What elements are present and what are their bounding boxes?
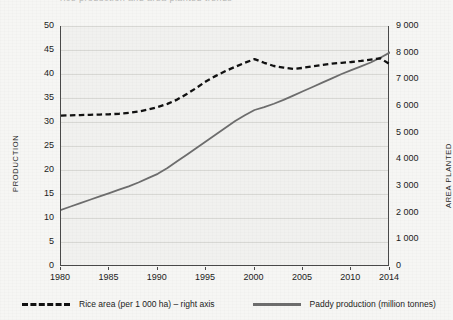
left-axis-tick: 50	[26, 20, 54, 30]
x-axis-tick: 1990	[137, 272, 177, 282]
right-axis-tick: 9 000	[396, 20, 419, 30]
x-axis-tick: 1995	[185, 272, 225, 282]
x-axis-tick: 1980	[40, 272, 80, 282]
left-axis-tick: 0	[26, 260, 54, 270]
right-axis-title: AREA PLANTED	[444, 143, 453, 208]
left-axis-tick: 30	[26, 116, 54, 126]
x-axis-tick-mark	[60, 267, 61, 270]
x-axis-tick-mark	[350, 267, 351, 270]
x-axis-tick-mark	[157, 267, 158, 270]
left-axis-tick: 5	[26, 236, 54, 246]
series-line-rice-area	[61, 58, 390, 115]
left-axis-tick: 45	[26, 44, 54, 54]
left-axis-title: PRODUCTION	[11, 135, 20, 192]
chart-legend: Rice area (per 1 000 ha) – right axis Pa…	[0, 296, 451, 312]
right-axis-tick: 0	[396, 260, 401, 270]
x-axis-tick-mark	[108, 267, 109, 270]
right-axis-tick: 7 000	[396, 73, 419, 83]
left-axis-tick: 10	[26, 212, 54, 222]
solid-line-swatch-icon	[253, 303, 301, 306]
left-axis-tick: 35	[26, 92, 54, 102]
left-axis-tick: 15	[26, 188, 54, 198]
x-axis-tick-mark	[389, 267, 390, 270]
x-axis-tick: 2014	[369, 272, 409, 282]
x-axis-tick-mark	[254, 267, 255, 270]
x-axis-tick-mark	[302, 267, 303, 270]
legend-label-paddy-production: Paddy production (million tonnes)	[310, 299, 436, 309]
right-axis-tick: 5 000	[396, 127, 419, 137]
x-axis-tick: 2000	[234, 272, 274, 282]
x-axis-tick: 2010	[330, 272, 370, 282]
left-axis-tick: 20	[26, 164, 54, 174]
series-line-paddy-production	[61, 52, 390, 209]
x-axis-tick: 2005	[282, 272, 322, 282]
legend-item-paddy-production: Paddy production (million tonnes)	[253, 299, 436, 309]
plot-svg	[61, 26, 390, 266]
right-axis-tick: 3 000	[396, 180, 419, 190]
legend-item-rice-area: Rice area (per 1 000 ha) – right axis	[22, 299, 215, 309]
left-axis-tick: 40	[26, 68, 54, 78]
plot-area	[60, 26, 389, 266]
x-axis-tick-mark	[205, 267, 206, 270]
dashed-line-swatch-icon	[22, 303, 70, 306]
x-axis-tick: 1985	[88, 272, 128, 282]
left-axis-tick: 25	[26, 140, 54, 150]
right-axis-tick: 6 000	[396, 100, 419, 110]
legend-label-rice-area: Rice area (per 1 000 ha) – right axis	[79, 299, 215, 309]
right-axis-tick: 8 000	[396, 47, 419, 57]
right-axis-tick: 4 000	[396, 153, 419, 163]
right-axis-tick: 1 000	[396, 233, 419, 243]
right-axis-tick: 2 000	[396, 207, 419, 217]
